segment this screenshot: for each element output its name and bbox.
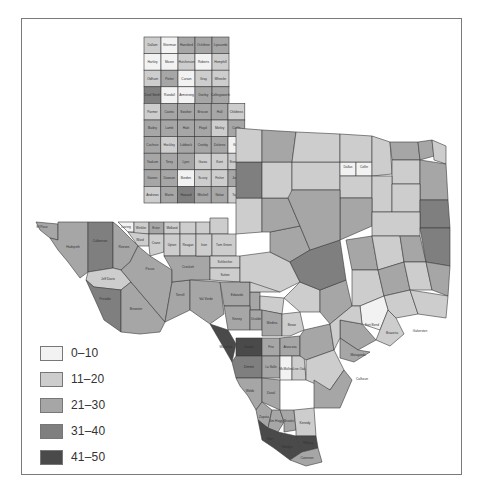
county-label: Floyd <box>199 126 207 130</box>
svg-text:Atascosa: Atascosa <box>283 345 296 349</box>
county-label: Gaines <box>147 176 158 180</box>
svg-text:Calhoun: Calhoun <box>356 377 368 381</box>
county-label: Gray <box>200 77 207 81</box>
county-label: Hansford <box>180 43 193 47</box>
county-label: Carson <box>181 77 192 81</box>
svg-text:Presidio: Presidio <box>99 297 111 301</box>
county-label: Armstrong <box>179 93 194 97</box>
county-ne-5 <box>340 134 372 162</box>
svg-text:Val Verde: Val Verde <box>199 297 213 301</box>
county-sterling <box>196 222 210 234</box>
county-label: Lubbock <box>180 143 192 147</box>
county-ne-4 <box>292 132 340 162</box>
county-label: Nolan <box>215 193 224 197</box>
svg-text:McMullen: McMullen <box>279 367 293 371</box>
legend-item-31-40: 31–40 <box>40 418 105 444</box>
legend: 0–10 11–20 21–30 31–40 41–50 <box>40 340 105 470</box>
county-ne-10 <box>392 160 420 184</box>
county-label: Kent <box>216 160 223 164</box>
county-label: Dawson <box>163 176 175 180</box>
svg-text:Zapata: Zapata <box>259 415 269 419</box>
county-label: Swisher <box>180 110 192 114</box>
svg-text:Willacy: Willacy <box>303 441 313 445</box>
county-label: Yoakum <box>147 160 159 164</box>
county-label: Hartley <box>147 60 158 64</box>
county-label: Lynn <box>183 160 190 164</box>
svg-text:Medina: Medina <box>267 321 278 325</box>
svg-text:Ector: Ector <box>152 226 160 230</box>
legend-label: 31–40 <box>71 424 105 438</box>
svg-text:Reeves: Reeves <box>119 245 130 249</box>
county-label: Parmer <box>147 110 158 114</box>
county-webb <box>236 378 262 410</box>
county-label: Deaf Smith <box>145 93 161 97</box>
county-label: Cochran <box>146 143 158 147</box>
county-label: Sherman <box>163 43 176 47</box>
svg-text:Hudspeth: Hudspeth <box>66 245 80 249</box>
svg-text:Sutton: Sutton <box>220 273 229 277</box>
svg-text:Kinney: Kinney <box>232 317 242 321</box>
svg-text:Live Oak: Live Oak <box>293 367 306 371</box>
county-label: Hall <box>217 110 223 114</box>
county-culberson <box>88 222 113 272</box>
legend-item-11-20: 11–20 <box>40 366 105 392</box>
county-label: Garza <box>198 160 207 164</box>
svg-text:Dallas: Dallas <box>344 165 353 169</box>
county-label: Oldham <box>147 77 159 81</box>
county-label: Moore <box>165 60 174 64</box>
svg-text:Starr: Starr <box>267 437 275 441</box>
county-east-8 <box>426 262 450 296</box>
svg-text:Loving: Loving <box>121 225 131 229</box>
svg-text:Crane: Crane <box>152 241 161 245</box>
county-coke <box>210 218 228 234</box>
county-label: Briscoe <box>197 110 208 114</box>
svg-text:Tom Green: Tom Green <box>216 243 232 247</box>
svg-text:Jim Hogg: Jim Hogg <box>269 419 283 423</box>
county-label: Scurry <box>198 176 208 180</box>
figure-caption <box>20 486 460 492</box>
county-label: Motley <box>215 126 225 130</box>
svg-text:Midland: Midland <box>166 226 177 230</box>
svg-text:La Salle: La Salle <box>265 365 277 369</box>
county-crane <box>149 234 164 256</box>
county-ne-13 <box>392 184 420 212</box>
county-ne-15 <box>340 198 372 240</box>
svg-text:Uvalde: Uvalde <box>251 317 261 321</box>
county-label: Donley <box>199 93 209 97</box>
svg-text:Jeff Davis: Jeff Davis <box>101 277 115 281</box>
legend-swatch <box>40 372 63 387</box>
svg-text:Reagan: Reagan <box>182 243 193 247</box>
county-label: Hockley <box>164 143 176 147</box>
svg-text:Brazoria: Brazoria <box>386 331 398 335</box>
svg-text:Winkler: Winkler <box>136 226 148 230</box>
county-label: Fisher <box>215 176 225 180</box>
svg-text:Upton: Upton <box>168 243 177 247</box>
legend-label: 0–10 <box>71 346 99 360</box>
svg-text:Edwards: Edwards <box>231 293 244 297</box>
county-bowie <box>432 140 446 164</box>
county-north-central-4 <box>262 162 292 198</box>
county-real <box>250 292 260 310</box>
legend-item-21-30: 21–30 <box>40 392 105 418</box>
county-north-central-6 <box>262 130 296 162</box>
svg-text:Crockett: Crockett <box>182 265 194 269</box>
county-label: Crosby <box>198 143 209 147</box>
county-label: Howard <box>181 193 192 197</box>
svg-text:Frio: Frio <box>268 345 274 349</box>
legend-swatch <box>40 398 63 413</box>
svg-text:Collin: Collin <box>360 165 368 169</box>
county-label: Randall <box>164 93 175 97</box>
svg-text:Irion: Irion <box>201 243 207 247</box>
svg-text:Bexar: Bexar <box>288 323 297 327</box>
county-label: Potter <box>165 77 174 81</box>
svg-text:Terrell: Terrell <box>176 293 185 297</box>
svg-text:Duval: Duval <box>267 391 275 395</box>
county-ne-6 <box>372 136 392 176</box>
svg-text:Cameron: Cameron <box>300 456 313 460</box>
county-label: Andrews <box>146 193 159 197</box>
county-label: Castro <box>165 110 175 114</box>
county-label: Terry <box>166 160 173 164</box>
county-north-central-5 <box>236 128 262 162</box>
legend-swatch <box>40 424 63 439</box>
county-label: Bailey <box>148 126 157 130</box>
